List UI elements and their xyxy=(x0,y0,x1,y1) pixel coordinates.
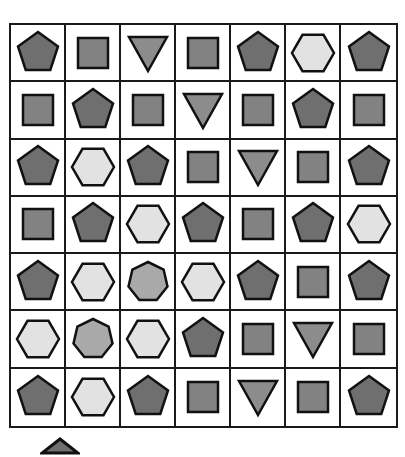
square-icon xyxy=(347,88,391,132)
grid-cell xyxy=(66,140,121,197)
grid-cell xyxy=(286,25,341,82)
pentagon-icon xyxy=(236,260,280,304)
triangle-icon xyxy=(181,88,225,132)
grid-cell xyxy=(286,254,341,311)
grid-cell xyxy=(341,254,396,311)
grid-cell xyxy=(66,82,121,139)
grid-cell xyxy=(176,311,231,368)
shape-grid xyxy=(9,23,398,428)
pentagon-icon xyxy=(71,88,115,132)
hexagon-icon xyxy=(126,202,170,246)
grid-cell xyxy=(66,311,121,368)
square-icon xyxy=(126,88,170,132)
pentagon-icon xyxy=(16,375,60,419)
grid-cell xyxy=(341,82,396,139)
grid-cell xyxy=(341,25,396,82)
square-icon xyxy=(236,202,280,246)
grid-cell xyxy=(286,140,341,197)
grid-cell xyxy=(66,369,121,426)
pentagon-icon xyxy=(16,260,60,304)
grid-cell xyxy=(11,197,66,254)
grid-cell xyxy=(121,140,176,197)
hexagon-icon xyxy=(347,202,391,246)
hexagon-icon xyxy=(71,260,115,304)
grid-cell xyxy=(286,82,341,139)
pentagon-icon xyxy=(181,202,225,246)
square-icon xyxy=(347,317,391,361)
pentagon-icon xyxy=(347,375,391,419)
pentagon-icon xyxy=(126,375,170,419)
hexagon-icon xyxy=(126,317,170,361)
square-icon xyxy=(236,317,280,361)
square-icon xyxy=(181,145,225,189)
grid-cell xyxy=(176,369,231,426)
grid-cell xyxy=(286,197,341,254)
grid-cell xyxy=(176,197,231,254)
hexagon-icon xyxy=(16,317,60,361)
partial-pentagon-icon xyxy=(40,437,80,457)
square-icon xyxy=(236,88,280,132)
square-icon xyxy=(181,31,225,75)
square-icon xyxy=(181,375,225,419)
hexagon-icon xyxy=(181,260,225,304)
grid-cell xyxy=(231,311,286,368)
grid-cell xyxy=(121,369,176,426)
pentagon-icon xyxy=(347,145,391,189)
grid-cell xyxy=(341,140,396,197)
grid-cell xyxy=(176,82,231,139)
grid-cell xyxy=(121,254,176,311)
triangle-icon xyxy=(236,375,280,419)
hexagon-icon xyxy=(71,375,115,419)
grid-cell xyxy=(176,140,231,197)
square-icon xyxy=(16,202,60,246)
grid-cell xyxy=(66,25,121,82)
grid-cell xyxy=(11,25,66,82)
square-icon xyxy=(291,260,335,304)
hexagon-icon xyxy=(71,145,115,189)
triangle-icon xyxy=(291,317,335,361)
grid-cell xyxy=(231,25,286,82)
grid-cell xyxy=(66,197,121,254)
grid-cell xyxy=(231,369,286,426)
grid-cell xyxy=(341,369,396,426)
pentagon-icon xyxy=(347,260,391,304)
pentagon-icon xyxy=(126,145,170,189)
square-icon xyxy=(291,145,335,189)
grid-cell xyxy=(176,25,231,82)
grid-cell xyxy=(11,82,66,139)
grid-cell xyxy=(11,254,66,311)
square-icon xyxy=(291,375,335,419)
grid-cell xyxy=(231,254,286,311)
triangle-icon xyxy=(126,31,170,75)
grid-cell xyxy=(176,254,231,311)
pentagon-icon xyxy=(71,202,115,246)
square-icon xyxy=(16,88,60,132)
grid-cell xyxy=(341,197,396,254)
pentagon-icon xyxy=(347,31,391,75)
grid-cell xyxy=(11,311,66,368)
pentagon-icon xyxy=(16,31,60,75)
grid-cell xyxy=(66,254,121,311)
grid-cell xyxy=(121,311,176,368)
grid-cell xyxy=(11,140,66,197)
square-icon xyxy=(71,31,115,75)
grid-cell xyxy=(231,140,286,197)
pentagon-icon xyxy=(16,145,60,189)
triangle-icon xyxy=(236,145,280,189)
grid-cell xyxy=(121,197,176,254)
grid-cell xyxy=(231,82,286,139)
grid-cell xyxy=(231,197,286,254)
pentagon-icon xyxy=(291,88,335,132)
grid-cell xyxy=(286,369,341,426)
pentagon-icon xyxy=(181,317,225,361)
grid-cell xyxy=(286,311,341,368)
heptagon-icon xyxy=(71,317,115,361)
grid-cell xyxy=(341,311,396,368)
grid-cell xyxy=(121,25,176,82)
hexagon-icon xyxy=(291,31,335,75)
pentagon-icon xyxy=(236,31,280,75)
grid-cell xyxy=(121,82,176,139)
pentagon-icon xyxy=(291,202,335,246)
grid-cell xyxy=(11,369,66,426)
heptagon-icon xyxy=(126,260,170,304)
